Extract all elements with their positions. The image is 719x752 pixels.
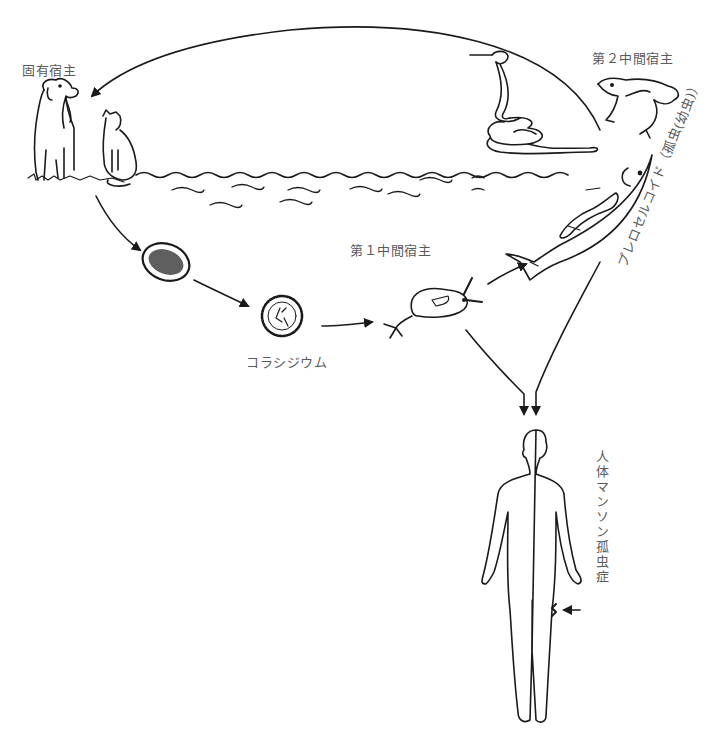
- human-body-icon: [482, 430, 581, 722]
- arrow-copepod-to-fish: [488, 264, 526, 284]
- arrow-host-to-egg: [96, 196, 140, 250]
- snake-icon: [470, 51, 598, 153]
- water-surface: [136, 173, 568, 178]
- label-coracidium: コラシジウム: [246, 352, 327, 371]
- arrow-to-definitive-host: [92, 27, 600, 130]
- arrow-egg-to-coracidium: [194, 280, 248, 306]
- label-first-intermediate-host: 第１中間宿主: [350, 240, 431, 259]
- arrow-copepod-to-human: [466, 330, 524, 414]
- label-definitive-host: 固有宿主: [22, 60, 76, 79]
- dog-icon: [35, 79, 79, 180]
- egg-icon: [137, 237, 194, 287]
- water-ripples: [172, 176, 484, 208]
- coracidium-icon: [262, 296, 302, 336]
- arrow-coracidium-to-copepod: [322, 322, 372, 326]
- label-second-intermediate-host: 第２中間宿主: [592, 48, 673, 67]
- copepod-icon: [384, 278, 482, 338]
- label-human-disease: 人体マンソン孤虫症: [592, 450, 611, 585]
- life-cycle-diagram: [0, 0, 719, 752]
- cat-icon: [103, 110, 136, 186]
- arrow-fish-to-human: [536, 262, 600, 414]
